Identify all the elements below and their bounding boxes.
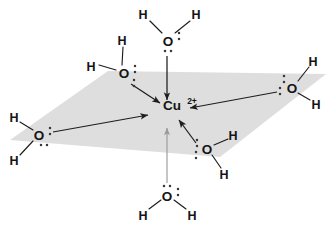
lone-pair-dot (49, 127, 52, 130)
lone-pair-dot (133, 85, 136, 88)
lone-pair-dot (196, 145, 199, 148)
center-element-label: Cu (163, 98, 181, 113)
hydrogen-atom-label: H (9, 154, 18, 168)
lone-pair-dot (279, 93, 282, 96)
equatorial-plane (10, 71, 326, 157)
oxygen-atom-label: O (163, 34, 174, 49)
hydrogen-atom-label: H (138, 8, 147, 22)
lone-pair-dot (46, 144, 49, 147)
lone-pair-dots (40, 144, 49, 147)
lone-pair-dot (177, 194, 180, 197)
lone-pair-dot (134, 71, 137, 74)
oh-bond-line (20, 141, 33, 155)
lone-pair-dots (177, 188, 180, 197)
lone-pair-dot (170, 50, 173, 53)
oh-bond-line (298, 93, 310, 100)
lone-pair-dots (178, 32, 181, 41)
hydrogen-atom-label: H (138, 209, 147, 223)
lone-pair-dot (164, 50, 167, 53)
hydrogen-atom-label: H (228, 129, 237, 143)
lone-pair-dot (196, 139, 199, 142)
lone-pair-dot (177, 188, 180, 191)
lone-pair-dot (49, 133, 52, 136)
oh-bond-line (149, 200, 161, 209)
lone-pair-dot (283, 81, 286, 84)
oxygen-atom-label: O (162, 189, 173, 204)
lone-pair-dot (133, 79, 136, 82)
oh-bond-line (174, 200, 186, 209)
oh-bond-line (150, 21, 162, 33)
hydrogen-atom-label: H (311, 98, 320, 112)
oh-bond-line (122, 47, 123, 65)
hydrogen-atom-label: H (308, 55, 317, 69)
oxygen-atom-label: O (202, 142, 213, 157)
oh-bond-line (99, 65, 116, 70)
oxygen-atom-label: O (287, 81, 298, 96)
hydrogen-atom-label: H (187, 209, 196, 223)
lone-pair-dot (169, 185, 172, 188)
center-charge-label: 2+ (187, 96, 197, 106)
lone-pair-dot (195, 151, 198, 154)
oh-bond-line (175, 21, 190, 33)
diagram-canvas: OHHOHHOHHOHHOHHOHH Cu 2+ (0, 0, 334, 228)
hydrogen-atom-label: H (86, 60, 95, 74)
oxygen-atom-label: O (119, 66, 130, 81)
coordination-complex-diagram: OHHOHHOHHOHHOHHOHH Cu 2+ (0, 0, 334, 228)
lone-pair-dot (195, 157, 198, 160)
lone-pair-dot (163, 185, 166, 188)
lone-pair-dot (178, 38, 181, 41)
lone-pair-dot (279, 87, 282, 90)
lone-pair-dot (40, 144, 43, 147)
hydrogen-atom-label: H (219, 168, 228, 182)
lone-pair-dots (134, 65, 137, 74)
hydrogen-atom-label: H (191, 8, 200, 22)
hydrogen-atom-label: H (9, 111, 18, 125)
hydrogen-atom-label: H (117, 34, 126, 48)
lone-pair-dot (134, 65, 137, 68)
lone-pair-dots (163, 185, 172, 188)
lone-pair-dot (283, 75, 286, 78)
oxygen-atom-label: O (34, 128, 45, 143)
lone-pair-dot (178, 32, 181, 35)
lone-pair-dots (164, 50, 173, 53)
